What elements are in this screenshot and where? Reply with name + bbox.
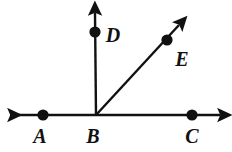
geometry-canvas: A B C D E — [0, 0, 232, 152]
geometry-diagram: A B C D E — [0, 0, 232, 152]
point-dot-a — [37, 109, 48, 120]
point-label-e: E — [174, 48, 188, 70]
point-label-a: A — [31, 125, 46, 147]
point-label-b: B — [85, 125, 99, 147]
point-dot-d — [89, 26, 100, 37]
point-label-c: C — [185, 125, 199, 147]
point-dot-c — [186, 109, 197, 120]
point-dot-e — [161, 34, 172, 45]
point-label-d: D — [105, 24, 120, 46]
